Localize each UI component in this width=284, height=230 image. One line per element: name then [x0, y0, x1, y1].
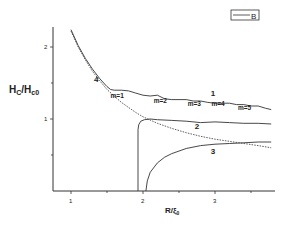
- series-1-line: [71, 30, 271, 110]
- y-axis-label: HC/Hc0: [9, 84, 39, 96]
- y-tick-label: 2: [44, 44, 48, 50]
- annotation-label: 2: [195, 122, 200, 131]
- annotation-label: m=5: [238, 104, 252, 111]
- annotation-label: 4: [94, 75, 99, 84]
- series-2-line: [138, 119, 271, 191]
- x-tick-label: 2: [141, 198, 145, 204]
- series-3-line: [146, 142, 271, 191]
- legend-label: B: [251, 12, 256, 21]
- annotation-label: 1: [211, 89, 216, 98]
- annotation-label: m=3: [188, 100, 202, 107]
- annotation-label: 3: [211, 147, 216, 156]
- annotation-label: m=2: [154, 97, 168, 104]
- annotation-label: m=4: [211, 100, 225, 107]
- x-axis-label: R/ξ0: [165, 206, 180, 216]
- legend: B: [231, 10, 259, 21]
- x-tick-label: 1: [69, 198, 73, 204]
- y-tick-label: 1: [44, 116, 48, 122]
- annotation-label: m=1: [111, 92, 125, 99]
- series-4-line: [71, 31, 271, 148]
- x-tick-label: 3: [213, 198, 217, 204]
- chart: 12312 1234m=1m=2m=3m=4m=5 HC/Hc0 R/ξ0 B: [0, 0, 284, 230]
